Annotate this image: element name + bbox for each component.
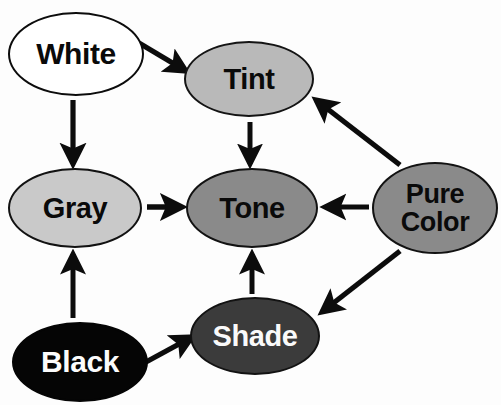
arrow-purecolor-to-tint bbox=[316, 100, 400, 165]
node-pure-color-label: Pure Color bbox=[399, 180, 472, 236]
node-gray[interactable]: Gray bbox=[8, 168, 142, 248]
node-gray-label: Gray bbox=[41, 193, 110, 223]
node-shade[interactable]: Shade bbox=[190, 297, 320, 375]
node-black[interactable]: Black bbox=[12, 322, 148, 402]
node-pure-color[interactable]: Pure Color bbox=[372, 162, 498, 254]
arrow-black-to-shade bbox=[146, 337, 192, 362]
node-white[interactable]: White bbox=[8, 12, 144, 96]
color-theory-diagram: White Tint Gray Tone Pure Color Shade Bl… bbox=[0, 0, 501, 405]
node-shade-label: Shade bbox=[210, 321, 299, 351]
node-tone[interactable]: Tone bbox=[186, 168, 318, 248]
node-white-label: White bbox=[34, 38, 118, 69]
node-tint[interactable]: Tint bbox=[184, 41, 314, 117]
arrow-white-to-tint bbox=[139, 43, 186, 71]
node-black-label: Black bbox=[39, 346, 121, 377]
node-tint-label: Tint bbox=[221, 64, 276, 94]
node-tone-label: Tone bbox=[217, 193, 287, 223]
arrow-purecolor-to-shade bbox=[322, 251, 400, 312]
